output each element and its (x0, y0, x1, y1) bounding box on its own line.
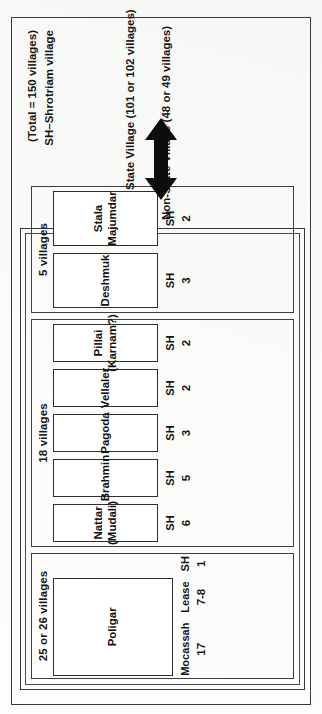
tenure-name-pillai: Pillai (Karnam?) (92, 314, 119, 372)
metric-value-mocassah: 17 (193, 643, 208, 656)
group-label-poligar: 25 or 26 villages (37, 558, 53, 674)
state-village-caption: State Village (101 or 102 villages) (124, 9, 136, 190)
state-village-side: Non-State Village (48 or 49 villages) St… (20, 24, 305, 224)
tenure-box-vellaler: Vellaler (53, 369, 158, 407)
metrics-vellaler: SH 2 (158, 369, 193, 407)
tenure-box-nattar: Nattar (Mudali) (53, 504, 158, 542)
double-headed-arrow-icon (144, 118, 178, 200)
metric-label-sh-poligar: SH (179, 556, 193, 571)
non-state-village-inner-frame: 25 or 26 villages Poligar Mocassah 17 (25, 233, 300, 685)
tenure-name-nattar-main: Nattar (92, 506, 104, 539)
tenure-name-nattar: Nattar (Mudali) (92, 501, 119, 545)
tenure-poligar: Poligar Mocassah 17 Lease 7-8 (53, 556, 289, 676)
group-eighteen-villages: 18 villages Nattar (Mudali) (31, 319, 294, 547)
tenure-vellaler: Vellaler SH 2 (53, 369, 289, 407)
metric-label-sh-vellaler: SH (164, 380, 178, 395)
tenure-box-pagoda: Pagoda (53, 414, 158, 452)
legend-notes: (Total = 150 villages) SH–Shrotriam vill… (24, 30, 57, 146)
total-villages-note: (Total = 150 villages) (24, 30, 41, 146)
tenure-name-brahmin: Brahmin (99, 455, 113, 502)
tenure-name-pillai-main: Pillai (92, 330, 104, 357)
tenure-name-poligar: Poligar (106, 607, 120, 646)
metric-value-sh-pillai: 2 (178, 340, 193, 346)
group-poligar: 25 or 26 villages Poligar Mocassah 17 (31, 553, 294, 679)
metric-sh-brahmin: SH 5 (164, 470, 193, 485)
metric-sh-pillai: SH 2 (164, 335, 193, 350)
tenure-name-nattar-sub: (Mudali) (106, 501, 120, 545)
metric-label-sh-nattar: SH (164, 515, 178, 530)
tenure-nattar: Nattar (Mudali) SH 6 (53, 504, 289, 542)
outer-frame: 25 or 26 villages Poligar Mocassah 17 (11, 17, 311, 705)
metric-sh-nattar: SH 6 (164, 515, 193, 530)
tenure-pagoda: Pagoda SH 3 (53, 414, 289, 452)
metric-label-sh-pillai: SH (164, 335, 178, 350)
metric-value-sh-poligar: 1 (193, 561, 208, 567)
tenure-box-poligar: Poligar (53, 578, 173, 676)
tenure-name-pagoda: Pagoda (99, 412, 113, 454)
tenure-name-pillai-sub: (Karnam?) (106, 314, 120, 372)
metrics-brahmin: SH 5 (158, 459, 193, 497)
tenure-deshmuk: Deshmuk SH 3 (53, 253, 289, 308)
metric-value-sh-vellaler: 2 (178, 385, 193, 391)
group-body-poligar: Poligar Mocassah 17 Lease 7-8 (53, 558, 289, 674)
metric-sh-vellaler: SH 2 (164, 380, 193, 395)
metric-value-sh-deshmuk: 3 (178, 277, 193, 283)
metric-label-sh-brahmin: SH (164, 470, 178, 485)
tenure-box-brahmin: Brahmin (53, 459, 158, 497)
metric-sh-poligar: SH 1 (179, 556, 208, 571)
metric-label-lease: Lease (179, 581, 193, 612)
metrics-deshmuk: SH 3 (158, 253, 193, 308)
diagram-canvas: 25 or 26 villages Poligar Mocassah 17 (0, 0, 322, 714)
tenure-name-vellaler: Vellaler (99, 368, 113, 408)
group-label-eighteen-villages: 18 villages (37, 324, 53, 542)
tenure-box-deshmuk: Deshmuk (53, 253, 158, 308)
metric-label-mocassah: Mocassah (179, 623, 193, 676)
tenure-pillai: Pillai (Karnam?) SH 2 (53, 324, 289, 362)
metric-label-sh-deshmuk: SH (164, 273, 178, 288)
metric-lease: Lease 7-8 (179, 581, 208, 612)
non-state-village-container: 25 or 26 villages Poligar Mocassah 17 (20, 228, 305, 690)
metrics-pillai: SH 2 (158, 324, 193, 362)
sh-abbreviation-note: SH–Shrotriam village (41, 30, 58, 146)
metric-value-sh-pagoda: 3 (178, 430, 193, 436)
metric-value-sh-brahmin: 5 (178, 475, 193, 481)
metrics-pagoda: SH 3 (158, 414, 193, 452)
metric-sh-deshmuk: SH 3 (164, 273, 193, 288)
tenure-name-deshmuk: Deshmuk (99, 255, 113, 307)
tenure-brahmin: Brahmin SH 5 (53, 459, 289, 497)
metrics-poligar: Mocassah 17 Lease 7-8 SH 1 (173, 556, 208, 676)
group-body-eighteen-villages: Nattar (Mudali) SH 6 (53, 324, 289, 542)
metric-mocassah: Mocassah 17 (179, 623, 208, 676)
metric-value-sh-nattar: 6 (178, 520, 193, 526)
tenure-box-pillai: Pillai (Karnam?) (53, 324, 158, 362)
metric-label-sh-pagoda: SH (164, 425, 178, 440)
metric-value-lease: 7-8 (193, 589, 208, 606)
metrics-nattar: SH 6 (158, 504, 193, 542)
metric-sh-pagoda: SH 3 (164, 425, 193, 440)
